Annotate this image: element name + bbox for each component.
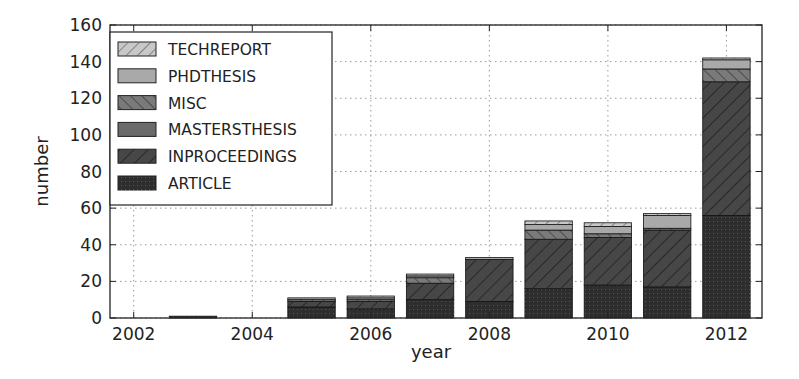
legend-item-article: ARTICLE	[118, 175, 232, 193]
bar-stack-2008	[466, 258, 513, 318]
bar-hatch	[584, 223, 631, 227]
bar-hatch	[703, 69, 750, 82]
legend-item-inproceedings: INPROCEEDINGS	[118, 148, 297, 166]
y-axis-label: number	[31, 136, 52, 207]
bar-hatch	[406, 274, 453, 276]
bar-hatch	[288, 302, 335, 307]
bar-segment-phdthesis	[703, 60, 750, 69]
bar-hatch	[406, 300, 453, 318]
x-tick-label: 2010	[586, 324, 629, 344]
bar-segment-phdthesis	[584, 226, 631, 233]
x-tick-label: 2008	[468, 324, 511, 344]
legend-swatch-hatch	[118, 42, 156, 56]
bar-stack-2005	[288, 298, 335, 318]
legend-label: ARTICLE	[168, 175, 232, 193]
bar-segment-phdthesis	[288, 298, 335, 300]
bar-hatch	[525, 289, 572, 318]
legend-item-mastersthesis: MASTERSTHESIS	[118, 121, 297, 139]
legend-item-techreport: TECHREPORT	[118, 41, 271, 59]
bar-hatch	[643, 230, 690, 287]
bar-hatch	[525, 221, 572, 225]
y-tick-label: 160	[70, 15, 102, 35]
legend-label: INPROCEEDINGS	[168, 148, 297, 166]
bar-hatch	[584, 237, 631, 285]
bar-stack-2007	[406, 274, 453, 318]
legend-label: PHDTHESIS	[168, 68, 256, 86]
bar-hatch	[347, 302, 394, 309]
bar-hatch	[466, 259, 513, 301]
bar-stack-2010	[584, 223, 631, 318]
legend-swatch-hatch	[118, 149, 156, 163]
legend: TECHREPORTPHDTHESISMISCMASTERSTHESISINPR…	[110, 32, 332, 205]
y-tick-label: 120	[70, 88, 102, 108]
bar-hatch	[643, 214, 690, 216]
bar-hatch	[347, 296, 394, 298]
y-tick-label: 0	[91, 308, 102, 328]
y-tick-label: 60	[80, 198, 102, 218]
x-tick-label: 2012	[705, 324, 748, 344]
bar-hatch	[703, 82, 750, 216]
y-tick-label: 80	[80, 162, 102, 182]
legend-swatch	[118, 69, 156, 83]
legend-item-phdthesis: PHDTHESIS	[118, 68, 256, 86]
legend-swatch	[118, 122, 156, 136]
bar-stack-2011	[643, 214, 690, 318]
bar-hatch	[525, 239, 572, 288]
y-tick-label: 100	[70, 125, 102, 145]
legend-swatch-hatch	[118, 96, 156, 110]
x-tick-label: 2004	[231, 324, 274, 344]
y-tick-label: 40	[80, 235, 102, 255]
bar-hatch	[584, 234, 631, 238]
legend-label: MASTERSTHESIS	[168, 121, 297, 139]
y-tick-label: 140	[70, 52, 102, 72]
bar-hatch	[643, 287, 690, 318]
legend-label: MISC	[168, 95, 207, 113]
bar-segment-phdthesis	[466, 258, 513, 260]
x-tick-label: 2002	[112, 324, 155, 344]
bar-segment-phdthesis	[643, 215, 690, 228]
legend-swatch-hatch	[118, 176, 156, 190]
bar-hatch	[406, 278, 453, 283]
bar-hatch	[525, 230, 572, 239]
bar-hatch	[406, 283, 453, 299]
y-tick-label: 20	[80, 271, 102, 291]
bar-stack-2012	[703, 58, 750, 318]
legend-label: TECHREPORT	[167, 41, 271, 59]
x-axis-label: year	[411, 341, 452, 362]
bar-stack-2009	[525, 221, 572, 318]
bar-hatch	[703, 215, 750, 318]
bar-hatch	[703, 58, 750, 60]
bar-segment-phdthesis	[525, 225, 572, 230]
stacked-bar-chart: 020406080100120140160 200220042006200820…	[0, 0, 799, 379]
bar-hatch	[288, 307, 335, 318]
x-tick-label: 2006	[349, 324, 392, 344]
